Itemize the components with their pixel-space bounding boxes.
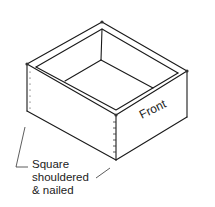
leader-line-left <box>16 127 28 167</box>
callout-text: Square shouldered & nailed <box>32 158 89 197</box>
callout-line-2: shouldered <box>32 171 89 184</box>
floor-line-left <box>65 60 101 81</box>
nail-row-left <box>29 71 30 108</box>
callout-line-1: Square <box>32 158 89 171</box>
rim-inner-back <box>36 29 178 73</box>
floor-line-right <box>101 60 153 88</box>
bottom-right-edge <box>116 117 187 160</box>
callout-line-3: & nailed <box>32 184 89 197</box>
inner-back-corner <box>101 29 102 60</box>
joint-left <box>25 62 28 65</box>
joint-top <box>100 20 103 23</box>
joint-right <box>185 69 188 72</box>
box-diagram: Front Square shouldered & nailed <box>0 0 215 207</box>
leader-line-right <box>96 168 110 178</box>
joint-front <box>114 113 117 116</box>
bottom-left-edge <box>27 111 116 160</box>
